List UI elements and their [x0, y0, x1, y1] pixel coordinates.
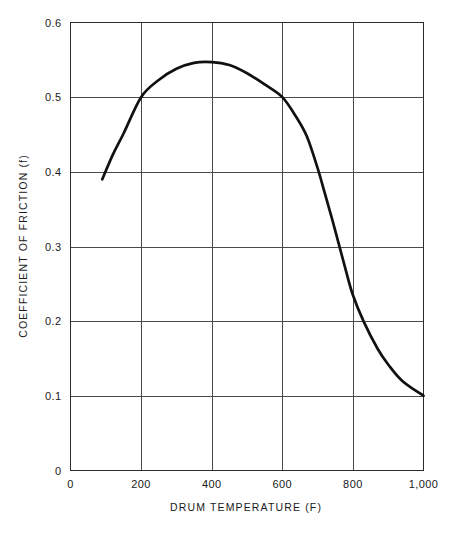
x-tick-label: 400	[202, 478, 222, 490]
x-tick-label: 200	[131, 478, 151, 490]
friction-vs-drum-temperature-chart: 02004006008001,000 00.10.20.30.40.50.6 D…	[0, 0, 469, 538]
y-tick-label: 0	[55, 465, 62, 477]
x-tick-label: 800	[343, 478, 363, 490]
x-tick-label: 0	[67, 478, 74, 490]
x-axis-title: DRUM TEMPERATURE (F)	[170, 501, 322, 513]
y-tick-label: 0.1	[45, 390, 62, 402]
y-axis-title: COEFFICIENT OF FRICTION (f)	[17, 154, 29, 338]
y-tick-label: 0.4	[45, 166, 62, 178]
y-tick-label: 0.3	[45, 241, 62, 253]
y-tick-label: 0.6	[45, 17, 62, 29]
x-tick-label: 600	[273, 478, 293, 490]
chart-figure: 02004006008001,000 00.10.20.30.40.50.6 D…	[0, 0, 469, 538]
y-tick-label: 0.5	[45, 91, 62, 103]
y-tick-label: 0.2	[45, 315, 62, 327]
x-tick-label: 1,000	[409, 478, 439, 490]
